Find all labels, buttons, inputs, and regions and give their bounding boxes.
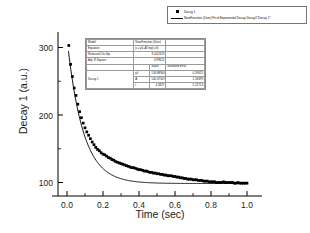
x-axis-title: Time (sec) <box>60 208 260 220</box>
data-point <box>80 116 83 119</box>
data-point <box>85 131 88 134</box>
data-point <box>91 141 94 144</box>
fit-param-name-t: t <box>134 82 150 88</box>
data-point <box>82 122 85 125</box>
data-point <box>84 126 87 129</box>
plot-area: 1002003000.00.20.40.60.81.0 <box>0 0 310 233</box>
data-point <box>87 134 90 137</box>
y-tick-label: 100 <box>39 178 53 188</box>
fit-report-grid: Model NewFunction (User) Equation y = y0… <box>86 39 205 89</box>
plot-canvas: 1002003000.00.20.40.60.81.0 <box>0 0 310 233</box>
y-tick-label: 200 <box>39 111 53 121</box>
fit-series-name: Decay 1 <box>87 70 134 88</box>
data-point <box>67 44 70 47</box>
y-tick-label: 300 <box>39 43 53 53</box>
fit-param-error-t: 5.21714 <box>166 82 205 88</box>
data-point <box>89 137 92 140</box>
fit-report-table: Model NewFunction (User) Equation y = y0… <box>85 38 206 90</box>
data-point <box>93 143 96 146</box>
fit-param-value-t: 4.3827 <box>150 82 166 88</box>
chart-figure: Decay 1 NewFunction (User) Fit of Expone… <box>0 0 310 233</box>
y-axis-title: Decay 1 (a.u.) <box>17 36 29 166</box>
